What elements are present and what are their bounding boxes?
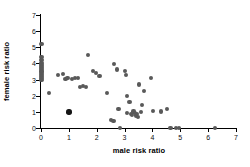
x-axis-tick	[208, 128, 209, 132]
x-axis-label: male risk ratio	[41, 146, 237, 155]
x-axis-line: 01234567	[41, 128, 237, 129]
data-point	[56, 73, 60, 77]
y-axis-tick-label: 6	[32, 28, 36, 35]
y-axis-label: female risk ratio	[2, 15, 12, 128]
data-point	[151, 109, 155, 113]
data-point	[165, 107, 169, 111]
data-point	[142, 89, 146, 93]
data-point	[47, 91, 51, 95]
x-axis-tick	[97, 128, 98, 132]
x-axis-tick-label: 6	[206, 134, 210, 141]
y-axis-tick-label: 7	[32, 12, 36, 19]
data-point	[112, 62, 116, 66]
data-point	[76, 76, 80, 80]
x-axis-tick-label: 7	[234, 134, 238, 141]
y-axis-tick	[36, 31, 40, 32]
data-point	[116, 107, 120, 111]
x-axis-tick-label: 4	[150, 134, 154, 141]
y-axis-tick-label: 0	[32, 125, 36, 132]
data-point	[39, 78, 43, 82]
x-axis-tick-label: 1	[67, 134, 71, 141]
x-axis-tick	[41, 128, 42, 132]
y-axis-tick	[36, 112, 40, 113]
data-point	[136, 115, 140, 119]
y-axis-tick-label: 5	[32, 44, 36, 51]
data-point	[86, 53, 90, 57]
x-axis-tick-label: 5	[178, 134, 182, 141]
data-point	[65, 76, 69, 80]
x-axis-tick-label: 0	[39, 134, 43, 141]
data-point	[66, 109, 71, 114]
y-axis-tick	[36, 96, 40, 97]
data-point	[140, 103, 144, 107]
data-point	[124, 73, 128, 77]
data-point	[168, 126, 172, 130]
data-point	[125, 94, 129, 98]
x-axis-tick-label: 2	[95, 134, 99, 141]
x-axis-tick	[69, 128, 70, 132]
data-point	[84, 85, 88, 89]
x-axis-tick	[125, 128, 126, 132]
y-axis-tick	[36, 47, 40, 48]
y-axis-tick	[36, 15, 40, 16]
data-point	[105, 91, 109, 95]
y-axis-tick	[36, 128, 40, 129]
y-axis-label-text: female risk ratio	[3, 42, 12, 101]
scatter-chart: female risk ratio 01234567 01234567 male…	[0, 0, 250, 167]
data-point	[97, 74, 101, 78]
data-point	[115, 67, 119, 71]
data-point	[149, 76, 153, 80]
data-point	[139, 110, 143, 114]
y-axis-tick-label: 3	[32, 76, 36, 83]
data-point	[213, 126, 217, 130]
data-point	[118, 126, 122, 130]
data-point	[159, 109, 163, 113]
plot-area	[41, 15, 236, 128]
x-axis-tick	[236, 128, 237, 132]
data-point	[111, 119, 115, 123]
data-point	[127, 100, 131, 104]
data-point	[137, 82, 141, 86]
data-point	[39, 42, 43, 46]
x-axis-tick	[152, 128, 153, 132]
data-point	[177, 126, 181, 130]
y-axis-tick-label: 4	[32, 60, 36, 67]
y-axis-tick-label: 2	[32, 92, 36, 99]
x-axis-tick-label: 3	[123, 134, 127, 141]
y-axis-tick-label: 1	[32, 108, 36, 115]
